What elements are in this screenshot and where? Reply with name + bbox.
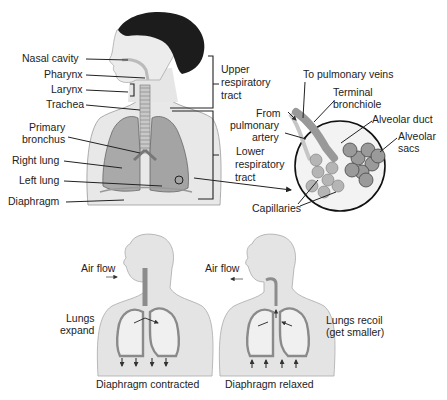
exhale-lungs-label-2: (get smaller)	[326, 326, 384, 338]
exhale-right-lung	[247, 310, 273, 356]
exhale-air-flow-label: Air flow	[205, 262, 240, 274]
label-primary-bronchus-2: bronchus	[22, 133, 65, 145]
exhale-left-lung	[280, 309, 309, 356]
capillary-bubble	[310, 154, 322, 166]
label-capillaries: Capillaries	[252, 202, 301, 214]
label-diaphragm: Diaphragm	[8, 195, 60, 207]
inhale-right-lung	[117, 310, 143, 356]
label-primary-bronchus-1: Primary	[29, 121, 66, 133]
capillary-bubble	[312, 166, 324, 178]
label-to-pulmonary-veins: To pulmonary veins	[303, 68, 393, 80]
label-alveolar-sacs-2: sacs	[398, 142, 420, 154]
label-upper-tract-1: Upper	[221, 63, 250, 75]
alveolus	[345, 163, 359, 177]
label-left-lung: Left lung	[19, 174, 59, 186]
label-alveolar-sacs-1: Alveolar	[398, 130, 436, 142]
label-terminal-2: bronchiole	[333, 98, 382, 110]
inhale-caption: Diaphragm contracted	[96, 378, 199, 390]
inhalation-figure: Air flow Lungs expand Diaphragm contract…	[60, 234, 213, 390]
inhale-lungs-label-2: expand	[60, 324, 95, 336]
label-nasal-cavity: Nasal cavity	[22, 52, 79, 64]
label-lower-tract-3: tract	[235, 171, 256, 183]
label-lower-tract-2: respiratory	[235, 158, 285, 170]
inhale-left-lung	[150, 309, 179, 356]
label-right-lung: Right lung	[12, 154, 59, 166]
respiratory-diagram: Nasal cavity Pharynx Larynx Trachea Prim…	[0, 0, 447, 400]
label-pharynx: Pharynx	[44, 68, 83, 80]
alveolus	[371, 149, 385, 163]
label-upper-tract-3: tract	[221, 89, 242, 101]
exhalation-figure: Air flow Lungs recoil (get smaller) Diap…	[205, 234, 384, 390]
exhale-lungs-label-1: Lungs recoil	[326, 314, 383, 326]
exhale-caption: Diaphragm relaxed	[225, 378, 314, 390]
label-larynx: Larynx	[51, 83, 83, 95]
inhale-lungs-label-1: Lungs	[66, 312, 95, 324]
label-from-2: pulmonary	[230, 119, 280, 131]
label-alveolar-duct: Alveolar duct	[372, 113, 433, 125]
label-terminal-1: Terminal	[333, 86, 373, 98]
label-lower-tract-1: Lower	[236, 145, 265, 157]
alveolus	[343, 143, 357, 157]
label-from-1: From	[256, 107, 281, 119]
inhale-silhouette	[97, 234, 213, 376]
label-upper-tract-2: respiratory	[221, 76, 271, 88]
trachea	[140, 85, 150, 153]
label-trachea: Trachea	[46, 98, 84, 110]
capillary-bubble	[326, 162, 338, 174]
label-from-3: artery	[252, 131, 280, 143]
inhale-air-flow-label: Air flow	[81, 262, 116, 274]
alveoli-inset: To pulmonary veins Terminal bronchiole F…	[230, 68, 436, 214]
alveolus	[359, 173, 373, 187]
capillary-bubble	[332, 180, 344, 192]
